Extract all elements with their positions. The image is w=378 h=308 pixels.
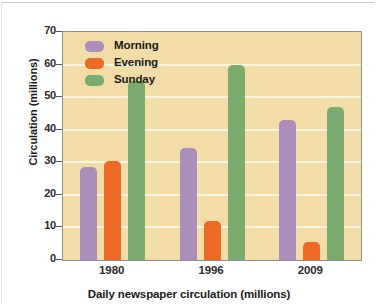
bar-morning-1980 [80,167,97,260]
y-axis-tick-label: 40 [44,122,56,134]
plot-area: MorningEveningSunday [62,31,362,261]
bar-morning-1996 [180,148,197,260]
gridline [63,96,361,98]
legend-item-label: Sunday [114,74,155,86]
gridline [63,129,361,131]
y-axis-tick-label: 20 [44,187,56,199]
morning-swatch-icon [85,41,104,52]
y-axis-tick-label: 0 [50,252,56,264]
bar-evening-2009 [303,242,320,260]
sunday-swatch-icon [85,75,104,86]
y-axis-tick-label: 30 [44,154,56,166]
bar-evening-1996 [204,221,221,260]
figure-root: Circulation (millions) 010203040506070 M… [0,0,378,308]
bar-sunday-2009 [327,107,344,260]
legend-item-label: Morning [114,40,159,52]
y-axis-tick-label: 50 [44,89,56,101]
x-axis-title: Daily newspaper circulation (millions) [0,288,378,300]
y-axis-tick-label: 10 [44,219,56,231]
legend-item-evening: Evening [85,55,195,71]
legend-item-label: Evening [114,57,158,69]
y-axis-title: Circulation (millions) [27,22,39,202]
x-axis-tick-label: 1996 [181,264,241,276]
x-axis-tick-label: 2009 [280,264,340,276]
bar-chart: Circulation (millions) 010203040506070 M… [0,0,378,308]
x-axis-tick-label: 1980 [82,264,142,276]
chart-legend: MorningEveningSunday [85,38,195,89]
bar-sunday-1980 [128,81,145,260]
bar-evening-1980 [104,161,121,260]
y-axis-tick-label: 60 [44,57,56,69]
evening-swatch-icon [85,58,104,69]
legend-item-sunday: Sunday [85,72,195,88]
bar-sunday-1996 [228,65,245,260]
y-axis-tick-label: 70 [44,24,56,36]
legend-item-morning: Morning [85,38,195,54]
bar-morning-2009 [279,120,296,260]
